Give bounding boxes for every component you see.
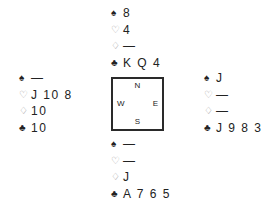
south-hand: ♠ — ♡ — ♢ J ♣ A 7 6 5 bbox=[111, 136, 171, 202]
compass-box: N W E S bbox=[111, 77, 164, 131]
west-clubs-row: ♣ 10 bbox=[19, 120, 73, 137]
diamond-icon: ♢ bbox=[19, 103, 30, 120]
south-diamonds-row: ♢ J bbox=[111, 169, 171, 186]
west-spades: — bbox=[31, 70, 45, 87]
south-hearts: — bbox=[123, 153, 137, 170]
compass-south-label: S bbox=[135, 118, 140, 126]
north-clubs-row: ♣ K Q 4 bbox=[111, 55, 161, 72]
north-hearts: 4 bbox=[123, 22, 131, 39]
east-clubs: J 9 8 3 bbox=[216, 120, 263, 137]
north-spades-row: ♠ 8 bbox=[111, 5, 161, 22]
east-diamonds: — bbox=[216, 103, 230, 120]
west-hand: ♠ — ♡ J 10 8 ♢ 10 ♣ 10 bbox=[19, 70, 73, 136]
north-diamonds: — bbox=[123, 38, 137, 55]
north-clubs: K Q 4 bbox=[123, 55, 161, 72]
heart-icon: ♡ bbox=[111, 153, 122, 170]
spade-icon: ♠ bbox=[111, 5, 122, 22]
west-hearts: J 10 8 bbox=[31, 87, 73, 104]
heart-icon: ♡ bbox=[204, 87, 215, 104]
west-diamonds: 10 bbox=[31, 103, 47, 120]
west-clubs: 10 bbox=[31, 120, 47, 137]
compass-east-label: E bbox=[153, 100, 158, 108]
diamond-icon: ♢ bbox=[111, 38, 122, 55]
south-spades: — bbox=[123, 136, 137, 153]
club-icon: ♣ bbox=[111, 55, 122, 72]
north-hearts-row: ♡ 4 bbox=[111, 22, 161, 39]
spade-icon: ♠ bbox=[111, 136, 122, 153]
east-spades-row: ♠ J bbox=[204, 70, 263, 87]
diamond-icon: ♢ bbox=[204, 103, 215, 120]
south-diamonds: J bbox=[123, 169, 131, 186]
compass-north-label: N bbox=[135, 82, 141, 90]
south-clubs-row: ♣ A 7 6 5 bbox=[111, 186, 171, 203]
heart-icon: ♡ bbox=[111, 22, 122, 39]
east-hearts-row: ♡ — bbox=[204, 87, 263, 104]
club-icon: ♣ bbox=[111, 186, 122, 203]
east-diamonds-row: ♢ — bbox=[204, 103, 263, 120]
east-spades: J bbox=[216, 70, 224, 87]
diamond-icon: ♢ bbox=[111, 169, 122, 186]
east-hearts: — bbox=[216, 87, 230, 104]
north-diamonds-row: ♢ — bbox=[111, 38, 161, 55]
east-clubs-row: ♣ J 9 8 3 bbox=[204, 120, 263, 137]
north-hand: ♠ 8 ♡ 4 ♢ — ♣ K Q 4 bbox=[111, 5, 161, 71]
club-icon: ♣ bbox=[19, 120, 30, 137]
heart-icon: ♡ bbox=[19, 87, 30, 104]
south-clubs: A 7 6 5 bbox=[123, 186, 171, 203]
west-spades-row: ♠ — bbox=[19, 70, 73, 87]
south-spades-row: ♠ — bbox=[111, 136, 171, 153]
north-spades: 8 bbox=[123, 5, 131, 22]
spade-icon: ♠ bbox=[204, 70, 215, 87]
west-diamonds-row: ♢ 10 bbox=[19, 103, 73, 120]
spade-icon: ♠ bbox=[19, 70, 30, 87]
east-hand: ♠ J ♡ — ♢ — ♣ J 9 8 3 bbox=[204, 70, 263, 136]
south-hearts-row: ♡ — bbox=[111, 153, 171, 170]
club-icon: ♣ bbox=[204, 120, 215, 137]
west-hearts-row: ♡ J 10 8 bbox=[19, 87, 73, 104]
compass-west-label: W bbox=[117, 100, 125, 108]
